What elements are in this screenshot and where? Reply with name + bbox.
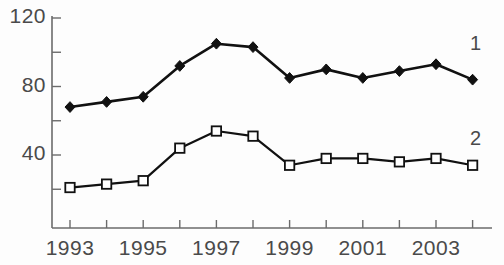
- x-tick-label-2003: 2003: [396, 236, 476, 260]
- series-2-marker: [358, 154, 367, 163]
- series-2-line: [70, 131, 473, 188]
- x-tick-label-1999: 1999: [250, 236, 330, 260]
- chart-plot-area: [0, 0, 504, 265]
- series-label-1: 1: [470, 32, 481, 55]
- series-2-marker: [175, 143, 184, 152]
- x-tick-label-1995: 1995: [103, 236, 183, 260]
- series-2-marker: [212, 126, 221, 135]
- series-2-marker: [285, 161, 294, 170]
- series-1-line: [70, 44, 473, 107]
- series-2-marker: [102, 179, 111, 188]
- series-1-marker: [102, 97, 112, 108]
- chart-axes: [52, 16, 492, 228]
- series-2-marker: [468, 161, 477, 170]
- line-chart: 1208040 199319951997199920012003 12: [0, 0, 504, 265]
- series-2-marker: [65, 183, 74, 192]
- series-1-marker: [431, 59, 441, 70]
- chart-series: [65, 38, 478, 192]
- series-2-marker: [431, 154, 440, 163]
- y-tick-label-40: 40: [22, 141, 46, 165]
- series-2-marker: [139, 176, 148, 185]
- series-1-marker: [358, 73, 368, 84]
- y-tick-label-80: 80: [22, 73, 46, 97]
- x-tick-label-1997: 1997: [176, 236, 256, 260]
- series-label-2: 2: [470, 127, 481, 150]
- series-1-marker: [468, 74, 478, 85]
- series-2-marker: [322, 154, 331, 163]
- series-2-marker: [248, 131, 257, 140]
- series-1-marker: [394, 66, 404, 77]
- series-1-marker: [321, 64, 331, 75]
- x-tick-label-1993: 1993: [30, 236, 110, 260]
- series-2-marker: [395, 157, 404, 166]
- series-1-marker: [211, 38, 221, 49]
- y-tick-label-120: 120: [9, 4, 46, 28]
- x-tick-label-2001: 2001: [323, 236, 403, 260]
- series-1-marker: [65, 102, 75, 113]
